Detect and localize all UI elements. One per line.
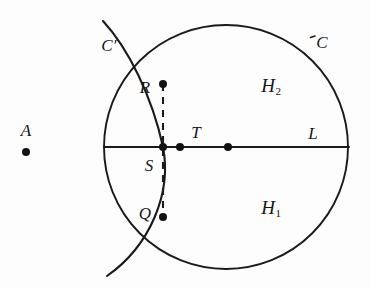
c-label-tick: [311, 36, 316, 38]
label-s: S: [145, 157, 154, 174]
label-h1: H1: [261, 198, 281, 217]
label-c-prime: C′: [101, 37, 116, 54]
geometry-figure: A C′ C H2 H1 R T L S Q: [0, 0, 370, 287]
point-t: [176, 143, 184, 151]
point-q: [159, 213, 167, 221]
point-r: [159, 80, 167, 88]
label-h1-subscript: 1: [276, 207, 282, 219]
label-h2-subscript: 2: [276, 85, 282, 97]
point-s: [159, 143, 167, 151]
label-a: A: [21, 122, 32, 139]
arc-c-prime: [103, 21, 165, 276]
label-q: Q: [139, 205, 151, 222]
label-h1-base: H: [261, 197, 275, 218]
label-h2-base: H: [261, 75, 275, 96]
point-a: [22, 148, 30, 156]
label-h2: H2: [261, 76, 281, 95]
point-center: [224, 143, 232, 151]
geometry-canvas: [0, 0, 370, 287]
label-l: L: [308, 125, 318, 142]
label-t: T: [191, 124, 201, 141]
label-r: R: [140, 79, 151, 96]
label-c: C: [316, 34, 328, 51]
